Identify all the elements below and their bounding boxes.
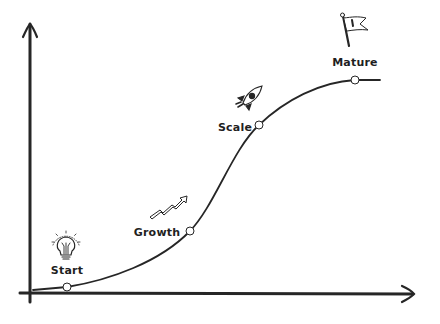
stage-point-mature [351,76,359,84]
stage-point-start [63,283,71,291]
x-axis [20,286,414,302]
growth-curve [33,80,380,290]
lifecycle-diagram: Start Growth Scale Mature [0,0,440,324]
stage-point-scale [255,121,263,129]
lightbulb-icon [52,231,80,259]
stage-point-growth [186,227,194,235]
stage-label-mature: Mature [332,56,378,69]
rocket-icon [236,86,262,110]
y-axis [23,24,37,302]
flag-icon [341,13,369,46]
stage-label-start: Start [51,264,83,277]
stage-label-growth: Growth [134,226,180,239]
stage-label-scale: Scale [218,121,252,134]
trend-arrow-icon [150,196,187,219]
